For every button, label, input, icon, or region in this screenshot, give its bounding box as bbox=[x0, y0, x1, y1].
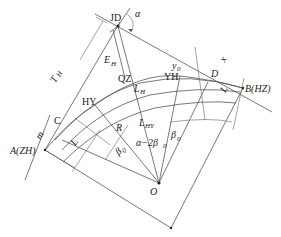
label-jd: JD bbox=[110, 12, 121, 23]
label-beta0-right: β bbox=[170, 129, 176, 140]
b-to-bottom-line bbox=[171, 88, 243, 228]
radius-line-d bbox=[159, 82, 208, 183]
a-point bbox=[44, 149, 46, 151]
label-eh: E bbox=[103, 54, 110, 65]
th-dimension-line bbox=[80, 21, 103, 60]
inner-curve-2 bbox=[63, 102, 236, 162]
bottom-point bbox=[170, 227, 172, 229]
jd-point bbox=[117, 25, 120, 28]
label-a-zh: A(ZH) bbox=[9, 145, 36, 157]
label-lh-sub: H bbox=[139, 88, 146, 96]
label-lhy-sub: HY bbox=[144, 122, 155, 130]
o-point bbox=[157, 181, 160, 184]
label-alpha-minus-sub: 0 bbox=[163, 142, 167, 150]
label-qz: QZ bbox=[118, 73, 131, 84]
label-b-hz: B(HZ) bbox=[245, 83, 271, 95]
label-th-sub: H bbox=[54, 69, 64, 79]
eh-line bbox=[113, 30, 125, 78]
label-o: O bbox=[150, 186, 157, 197]
label-c: C bbox=[54, 115, 61, 126]
label-r: R bbox=[115, 122, 122, 133]
label-lhy: L bbox=[138, 117, 145, 128]
label-eh-sub: H bbox=[110, 60, 117, 68]
label-beta0-right-sub: 0 bbox=[177, 135, 181, 143]
ls-right-perp bbox=[195, 47, 205, 120]
label-hy: HY bbox=[82, 96, 96, 107]
ls-right-dim-arc bbox=[170, 120, 232, 123]
label-alpha-minus: α−2β bbox=[136, 137, 158, 148]
ls-left-perp bbox=[72, 130, 100, 172]
transition-curve-diagram: JD α E H T H QZ L H HY YH y 0 x D B(HZ) … bbox=[0, 0, 281, 237]
bisector-line bbox=[118, 26, 159, 183]
alpha-arrow-icon bbox=[128, 29, 133, 32]
label-y0-sub: 0 bbox=[177, 65, 181, 73]
label-lh: L bbox=[133, 83, 140, 94]
label-alpha: α bbox=[135, 8, 141, 19]
label-d: D bbox=[210, 68, 219, 79]
tangent-line-left bbox=[45, 22, 120, 150]
b-point bbox=[242, 87, 244, 89]
label-x0: x bbox=[216, 54, 229, 65]
